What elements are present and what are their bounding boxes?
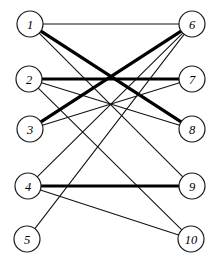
graph-node-3[interactable]: 3 bbox=[17, 116, 43, 142]
node-label-3: 3 bbox=[26, 123, 33, 137]
node-label-9: 9 bbox=[189, 180, 196, 194]
graph-edge-4-10 bbox=[40, 190, 178, 235]
edge-layer bbox=[35, 24, 184, 235]
node-label-8: 8 bbox=[189, 123, 196, 137]
node-label-2: 2 bbox=[26, 73, 32, 87]
graph-node-9[interactable]: 9 bbox=[179, 173, 205, 199]
graph-edge-5-6 bbox=[35, 34, 184, 228]
node-label-4: 4 bbox=[25, 180, 31, 194]
graph-node-4[interactable]: 4 bbox=[15, 173, 41, 199]
graph-node-5[interactable]: 5 bbox=[14, 226, 40, 252]
node-label-6: 6 bbox=[189, 18, 196, 32]
graph-node-2[interactable]: 2 bbox=[16, 66, 42, 92]
graph-node-1[interactable]: 1 bbox=[17, 11, 43, 37]
graph-canvas: 12345678910 bbox=[0, 0, 214, 268]
graph-node-7[interactable]: 7 bbox=[179, 66, 205, 92]
graph-node-8[interactable]: 8 bbox=[179, 116, 205, 142]
bipartite-graph-figure: 12345678910 bbox=[0, 0, 214, 268]
graph-node-10[interactable]: 10 bbox=[178, 226, 204, 252]
node-label-1: 1 bbox=[27, 18, 33, 32]
graph-node-6[interactable]: 6 bbox=[179, 11, 205, 37]
node-label-7: 7 bbox=[189, 73, 196, 87]
node-label-5: 5 bbox=[24, 233, 30, 247]
node-label-10: 10 bbox=[185, 233, 198, 247]
